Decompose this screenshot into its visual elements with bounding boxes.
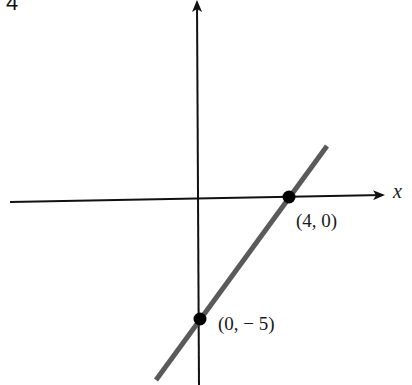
x-intercept-label: (4, 0) [296,210,337,232]
plotted-line [156,146,327,380]
x-axis [10,195,383,202]
x-axis-label: x [393,180,402,203]
point-y-intercept [194,313,207,326]
y-intercept-label: (0, − 5) [218,313,275,335]
point-x-intercept [283,191,296,204]
coordinate-plane [0,0,412,385]
page-number: 4 [6,0,18,16]
